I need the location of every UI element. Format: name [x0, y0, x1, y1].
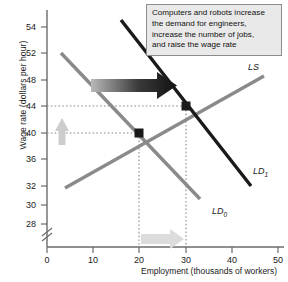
- y-tick-label-36: 36: [14, 154, 36, 164]
- chart-figure: Wage rate (dollars per hour) Employment …: [0, 0, 288, 282]
- curve-label-ld1: LD1: [253, 166, 268, 178]
- x-axis-title: Employment (thousands of workers): [130, 266, 288, 276]
- y-tick-label-52: 52: [14, 48, 36, 58]
- curve-label-ld1-sub: 1: [265, 171, 269, 178]
- wage-increase-arrow: [55, 118, 69, 145]
- equilibrium-marker-new: [182, 102, 191, 111]
- x-tick-label-40: 40: [221, 255, 243, 265]
- curve-label-ld0-sub: 0: [224, 211, 228, 218]
- x-tick-label-30: 30: [175, 255, 197, 265]
- x-tick-label-20: 20: [128, 255, 150, 265]
- x-tick-label-0: 0: [36, 255, 58, 265]
- curve-label-ld1-text: LD: [253, 166, 265, 176]
- y-tick-marks: [41, 27, 47, 224]
- x-tick-label-10: 10: [82, 255, 104, 265]
- equilibrium-marker-initial: [135, 129, 144, 138]
- y-tick-label-48: 48: [14, 75, 36, 85]
- callout-line-3: increase the number of jobs,: [152, 30, 277, 41]
- y-tick-label-30: 30: [14, 200, 36, 210]
- curve-label-ld0: LD0: [212, 206, 227, 218]
- y-tick-label-28: 28: [14, 219, 36, 229]
- y-tick-label-32: 32: [14, 181, 36, 191]
- curve-label-ls-text: LS: [248, 62, 259, 72]
- annotation-callout: Computers and robots increase the demand…: [146, 4, 282, 56]
- callout-line-4: and raise the wage rate: [152, 40, 277, 51]
- x-tick-marks: [47, 247, 278, 253]
- employment-increase-arrow: [141, 229, 184, 249]
- x-tick-label-50: 50: [267, 255, 288, 265]
- y-tick-label-40: 40: [14, 128, 36, 138]
- curve-label-ld0-text: LD: [212, 206, 224, 216]
- curve-label-ls: LS: [248, 62, 259, 72]
- guide-lines: [47, 106, 186, 247]
- callout-line-2: the demand for engineers,: [152, 19, 277, 30]
- y-tick-label-44: 44: [14, 101, 36, 111]
- callout-line-1: Computers and robots increase: [152, 8, 277, 19]
- y-tick-label-54: 54: [14, 22, 36, 32]
